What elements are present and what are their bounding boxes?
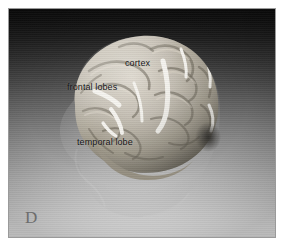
brain-image-frame: cortex frontal lobes temporal lobe D <box>8 8 276 238</box>
label-frontal-lobes: frontal lobes <box>67 82 117 92</box>
scene-gradient-background <box>9 9 275 237</box>
label-cortex: cortex <box>125 58 150 68</box>
figure-panel: cortex frontal lobes temporal lobe D <box>0 0 285 248</box>
panel-letter: D <box>25 209 38 227</box>
label-temporal-lobe: temporal lobe <box>77 137 133 147</box>
